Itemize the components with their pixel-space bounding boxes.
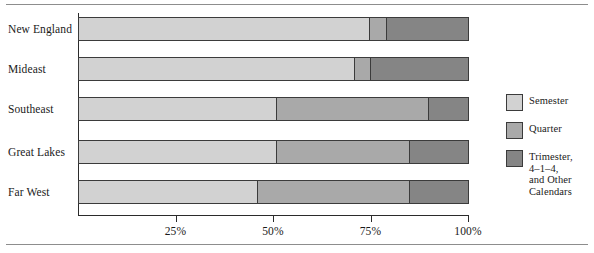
axis-tick-label: 50% xyxy=(262,225,284,237)
bar-segment xyxy=(370,58,468,80)
legend-label: Trimester, 4–1–4, and Other Calendars xyxy=(529,150,573,197)
bar-segment xyxy=(79,181,257,203)
bar-row xyxy=(78,17,469,41)
bar-segment xyxy=(79,98,276,120)
bottom-rule xyxy=(6,244,588,245)
bar-row xyxy=(78,57,469,81)
bar-row xyxy=(78,140,469,164)
bar-segment xyxy=(409,181,468,203)
legend-item: Semester xyxy=(506,94,590,111)
category-label: Great Lakes xyxy=(8,146,72,158)
bar-segment xyxy=(386,18,468,40)
bar-segment xyxy=(276,98,428,120)
bar-segment xyxy=(369,18,385,40)
axis-tick xyxy=(273,216,274,222)
bar-segment xyxy=(354,58,370,80)
top-rule xyxy=(6,4,588,5)
legend-label: Semester xyxy=(529,94,568,107)
bar-row xyxy=(78,97,469,121)
axis-tick xyxy=(176,216,177,222)
category-label: New England xyxy=(8,23,72,35)
bar-segment xyxy=(428,98,468,120)
legend-item: Quarter xyxy=(506,122,590,139)
axis-tick-label: 25% xyxy=(165,225,187,237)
axis-tick-label: 75% xyxy=(360,225,382,237)
bar-segment xyxy=(79,58,354,80)
category-label: Mideast xyxy=(8,63,72,75)
chart-legend: SemesterQuarterTrimester, 4–1–4, and Oth… xyxy=(506,94,590,208)
bar-segment xyxy=(79,141,276,163)
bar-segment xyxy=(276,141,409,163)
legend-item: Trimester, 4–1–4, and Other Calendars xyxy=(506,150,590,197)
axis-tick-label: 100% xyxy=(454,225,482,237)
stacked-bar-chart-figure: New EnglandMideastSoutheastGreat LakesFa… xyxy=(0,0,594,253)
legend-swatch xyxy=(506,94,523,111)
category-label: Far West xyxy=(8,186,72,198)
bar-segment xyxy=(79,18,369,40)
axis-tick xyxy=(468,216,469,222)
bar-segment xyxy=(257,181,409,203)
bar-row xyxy=(78,180,469,204)
legend-swatch xyxy=(506,150,523,167)
category-label: Southeast xyxy=(8,103,72,115)
axis-tick xyxy=(371,216,372,222)
legend-swatch xyxy=(506,122,523,139)
bar-segment xyxy=(409,141,468,163)
legend-label: Quarter xyxy=(529,122,562,135)
